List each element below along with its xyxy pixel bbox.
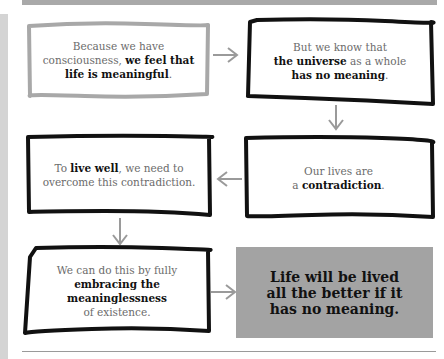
- conclusion-line: has no meaning.: [270, 301, 400, 317]
- text-segment: overcome this contradiction.: [43, 176, 196, 188]
- text-segment: consciousness,: [43, 54, 126, 66]
- box-consciousness: Because we have consciousness, we feel t…: [25, 20, 212, 100]
- box-text: Because we have consciousness, we feel t…: [33, 39, 205, 81]
- arrow-right-icon: [210, 282, 238, 302]
- text-segment: We can do this by fully: [57, 264, 177, 276]
- text-segment: , we need to: [118, 162, 183, 174]
- arrow-down-icon: [110, 218, 130, 246]
- conclusion-text: Life will be lived all the better if it …: [267, 269, 403, 317]
- bold-text-segment: embracing the: [74, 278, 160, 290]
- text-segment: .: [381, 179, 384, 191]
- text-segment: as a whole: [347, 55, 407, 67]
- box-text: We can do this by fully embracing the me…: [47, 263, 187, 319]
- bold-text-segment: life is meaningful: [65, 68, 169, 80]
- bold-text-segment: live well: [70, 162, 118, 174]
- bottom-divider: [22, 351, 436, 352]
- bold-text-segment: meaninglessness: [67, 292, 167, 304]
- box-contradiction: Our lives are a contradiction.: [242, 135, 435, 221]
- text-segment: a: [292, 179, 302, 191]
- left-margin-strip: [0, 14, 8, 359]
- box-text: To live well, we need to overcome this c…: [33, 161, 206, 189]
- text-segment: To: [55, 162, 71, 174]
- text-segment: .: [169, 68, 172, 80]
- conclusion-line: Life will be lived: [270, 269, 399, 285]
- text-segment: of existence.: [83, 306, 150, 318]
- box-universe-meaningless: But we know that the universe as a whole…: [245, 16, 435, 106]
- text-segment: But we know that: [293, 41, 387, 53]
- conclusion-line: all the better if it: [267, 285, 403, 301]
- bold-text-segment: the universe: [274, 55, 347, 67]
- bold-text-segment: has no meaning: [292, 69, 386, 81]
- bold-text-segment: we feel that: [125, 54, 194, 66]
- text-segment: Because we have: [73, 40, 164, 52]
- box-embracing-meaninglessness: We can do this by fully embracing the me…: [22, 245, 212, 337]
- arrow-left-icon: [215, 169, 243, 189]
- conclusion-box: Life will be lived all the better if it …: [236, 247, 433, 338]
- top-decorative-bar: [22, 0, 437, 5]
- box-text: Our lives are a contradiction.: [282, 164, 394, 192]
- bold-text-segment: contradiction: [302, 179, 381, 191]
- arrow-right-icon: [212, 45, 240, 65]
- text-segment: .: [385, 69, 388, 81]
- box-live-well: To live well, we need to overcome this c…: [25, 133, 213, 217]
- box-text: But we know that the universe as a whole…: [264, 40, 417, 82]
- text-segment: Our lives are: [304, 165, 373, 177]
- arrow-down-icon: [326, 105, 346, 131]
